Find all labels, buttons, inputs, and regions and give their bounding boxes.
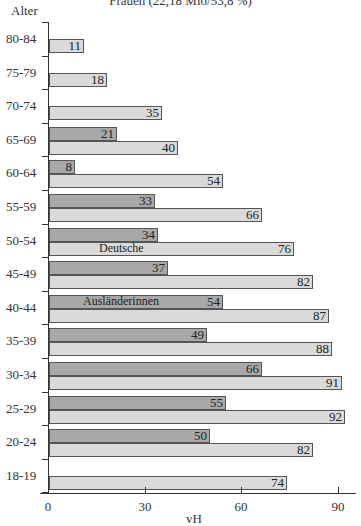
bar-deutsche: 87 (49, 309, 329, 323)
category-label: 55-59 (6, 199, 36, 215)
category-label: 75-79 (6, 65, 36, 81)
bar-value-label: 11 (68, 38, 81, 54)
x-axis-tick-label: 0 (45, 499, 52, 515)
bar-value-label: 54 (207, 173, 220, 189)
bar-value-label: 88 (316, 341, 329, 357)
series-label-auslaenderinnen: Ausländerinnen (83, 294, 159, 309)
y-axis-tick (42, 89, 48, 90)
bar-deutsche: 92 (49, 410, 345, 424)
x-axis-tick-label: 30 (139, 499, 152, 515)
x-axis-tick-label: 90 (332, 499, 345, 515)
category-label: 65-69 (6, 132, 36, 148)
category-label: 70-74 (6, 98, 36, 114)
y-axis-tick (42, 459, 48, 460)
y-axis-tick (42, 190, 48, 191)
y-axis-tick (42, 123, 48, 124)
bar-auslaenderinnen: 49 (49, 328, 207, 342)
x-axis-tick (338, 487, 339, 493)
category-label: 60-64 (6, 165, 36, 181)
bar-value-label: 34 (142, 227, 155, 243)
category-label: 80-84 (6, 31, 36, 47)
bar-deutsche: 35 (49, 106, 162, 120)
category-label: 50-54 (6, 233, 36, 249)
y-axis-top-tick (42, 22, 48, 23)
bar-value-label: 50 (194, 428, 207, 444)
bar-value-label: 21 (101, 126, 114, 142)
bar-auslaenderinnen: 50 (49, 429, 210, 443)
category-label: 45-49 (6, 266, 36, 282)
bar-value-label: 66 (246, 361, 259, 377)
bar-deutsche: 66 (49, 208, 262, 222)
y-axis-tick (42, 156, 48, 157)
x-axis-title: vH (186, 511, 202, 526)
bar-auslaenderinnen: 33 (49, 194, 155, 208)
bar-value-label: 92 (329, 409, 342, 425)
bar-value-label: 49 (191, 327, 204, 343)
x-axis-line (40, 493, 356, 494)
category-label: 35-39 (6, 333, 36, 349)
bar-value-label: 55 (210, 395, 223, 411)
x-axis-tick-label: 60 (235, 499, 248, 515)
bar-deutsche: 18 (49, 73, 107, 87)
y-axis-tick (42, 257, 48, 258)
y-axis-tick (42, 291, 48, 292)
bar-value-label: 54 (207, 294, 220, 310)
y-axis-tick (42, 392, 48, 393)
category-label: 20-24 (6, 434, 36, 450)
bar-deutsche: 40 (49, 141, 178, 155)
bar-value-label: 37 (152, 260, 165, 276)
bar-auslaenderinnen: 34 (49, 228, 158, 242)
category-label: 30-34 (6, 367, 36, 383)
category-label: 40-44 (6, 300, 36, 316)
bar-value-label: 87 (313, 308, 326, 324)
x-axis-tick (145, 487, 146, 493)
bar-deutsche: 82 (49, 443, 313, 457)
bar-value-label: 40 (162, 140, 175, 156)
bar-auslaenderinnen: 66 (49, 362, 262, 376)
category-label: 25-29 (6, 401, 36, 417)
y-axis-tick (42, 324, 48, 325)
bar-value-label: 33 (139, 193, 152, 209)
bar-value-label: 66 (246, 207, 259, 223)
bar-auslaenderinnen: 21 (49, 127, 117, 141)
bar-deutsche: 91 (49, 376, 342, 390)
bar-value-label: 18 (91, 72, 104, 88)
y-axis-tick (42, 425, 48, 426)
bar-value-label: 91 (326, 375, 339, 391)
bar-deutsche: 11 (49, 39, 84, 53)
bar-value-label: 35 (146, 105, 159, 121)
bar-deutsche: 88 (49, 342, 332, 356)
bar-value-label: 8 (66, 159, 73, 175)
bar-value-label: 74 (271, 475, 284, 491)
x-axis-tick (48, 487, 49, 493)
bar-value-label: 76 (278, 241, 291, 257)
bar-value-label: 82 (297, 442, 310, 458)
bar-auslaenderinnen: 37 (49, 261, 168, 275)
y-axis-tick (42, 56, 48, 57)
bar-auslaenderinnen: 8 (49, 160, 75, 174)
bar-deutsche: 82 (49, 275, 313, 289)
category-label: 18-19 (6, 468, 36, 484)
bar-deutsche: 54 (49, 174, 223, 188)
y-axis-tick (42, 224, 48, 225)
y-axis-title: Alter (11, 3, 38, 19)
y-axis-tick (42, 358, 48, 359)
bar-auslaenderinnen: 55 (49, 396, 226, 410)
x-axis-tick (241, 487, 242, 493)
chart-title: Frauen (22,18 Mio/53,8 %) (0, 0, 361, 9)
bar-deutsche: 74 (49, 476, 287, 490)
bar-value-label: 82 (297, 274, 310, 290)
bar-deutsche: 76 (49, 242, 294, 256)
series-label-deutsche: Deutsche (99, 241, 144, 256)
